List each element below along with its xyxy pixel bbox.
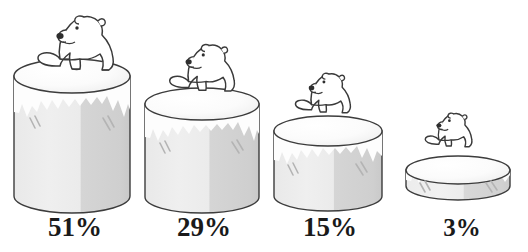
bar-1-value-label: 51%	[27, 212, 123, 242]
bar-2-group	[145, 45, 259, 213]
polar-bear-ice-bar-chart: 51% 29% 15% 3%	[0, 0, 528, 252]
bar-4-group	[406, 113, 510, 200]
bar-2-value-label: 29%	[156, 212, 252, 242]
bar-2-ice-top	[145, 88, 259, 120]
bar-3-ice-top	[274, 116, 382, 146]
polar-bear-icon	[295, 73, 350, 112]
bar-3-group	[274, 73, 382, 211]
bar-4-value-label: 3%	[414, 213, 510, 243]
bar-4-ice-top	[406, 156, 510, 184]
polar-bear-icon	[425, 113, 472, 147]
polar-bear-icon	[170, 45, 235, 91]
bar-1-group	[14, 16, 130, 213]
bar-3-value-label: 15%	[282, 212, 378, 242]
